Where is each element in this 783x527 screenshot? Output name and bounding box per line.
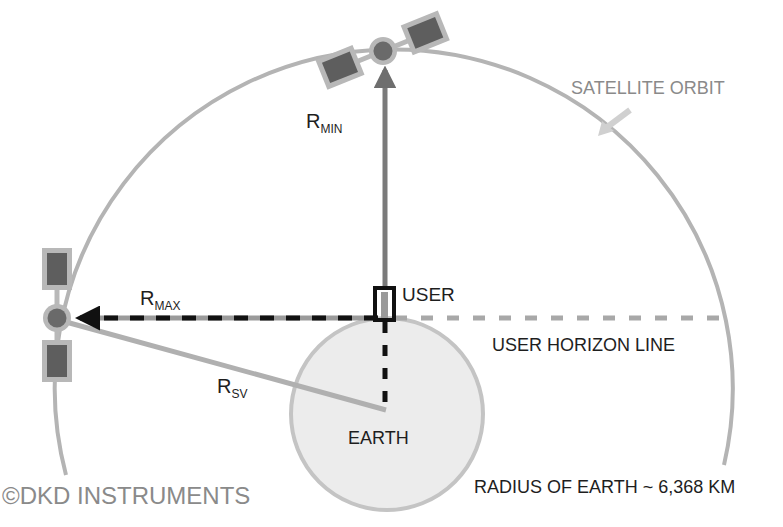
satellite-left-icon (42, 248, 72, 382)
copyright-symbol: © (2, 482, 20, 509)
satellite-geometry-diagram: SATELLITE ORBIT RMIN RMAX RSV USER USER … (0, 0, 783, 527)
rmax-label: RMAX (140, 288, 180, 308)
user-marker-icon (375, 288, 394, 320)
radius-of-earth-label: RADIUS OF EARTH ~ 6,368 KM (474, 478, 735, 496)
user-horizon-line-label: USER HORIZON LINE (492, 336, 675, 354)
rmax-label-main: R (140, 287, 154, 309)
user-label: USER (402, 285, 455, 304)
earth-label: EARTH (348, 429, 409, 447)
copyright-notice: ©DKD INSTRUMENTS (2, 484, 250, 508)
rmin-label-sub: MIN (320, 122, 342, 136)
rmin-label: RMIN (306, 111, 342, 131)
satellite-orbit-label: SATELLITE ORBIT (571, 79, 725, 97)
rsv-label-sub: SV (231, 387, 247, 401)
rsv-label-main: R (217, 375, 231, 397)
rmax-label-sub: MAX (154, 299, 180, 313)
copyright-owner: DKD INSTRUMENTS (20, 482, 251, 509)
rsv-label: RSV (217, 376, 247, 396)
rmin-label-main: R (306, 110, 320, 132)
